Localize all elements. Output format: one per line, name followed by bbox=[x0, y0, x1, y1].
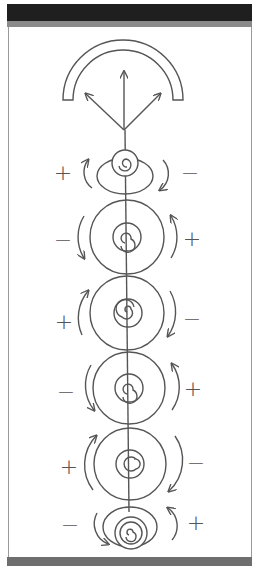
sign-left-3: + bbox=[55, 311, 73, 333]
spiral-element-4 bbox=[85, 352, 179, 424]
sign-right-2: + bbox=[183, 228, 201, 250]
horseshoe-arc-icon bbox=[63, 40, 183, 100]
sign-right-6: + bbox=[187, 512, 205, 534]
diagram-canvas bbox=[0, 0, 261, 566]
diverging-arrows-icon bbox=[86, 72, 160, 130]
sign-right-4: + bbox=[184, 378, 202, 400]
sign-right-5: − bbox=[187, 452, 205, 474]
sign-right-3: − bbox=[183, 308, 201, 330]
spiral-element-5 bbox=[85, 428, 183, 500]
axis-line bbox=[125, 130, 129, 512]
sign-left-2: − bbox=[54, 229, 72, 251]
sign-left-1: + bbox=[54, 162, 72, 184]
spiral-element-2 bbox=[78, 200, 177, 274]
spiral-element-6 bbox=[94, 507, 177, 549]
sign-right-1: − bbox=[181, 162, 199, 184]
sign-left-5: + bbox=[60, 456, 78, 478]
sign-left-4: − bbox=[57, 381, 75, 403]
sign-left-6: − bbox=[61, 514, 79, 536]
